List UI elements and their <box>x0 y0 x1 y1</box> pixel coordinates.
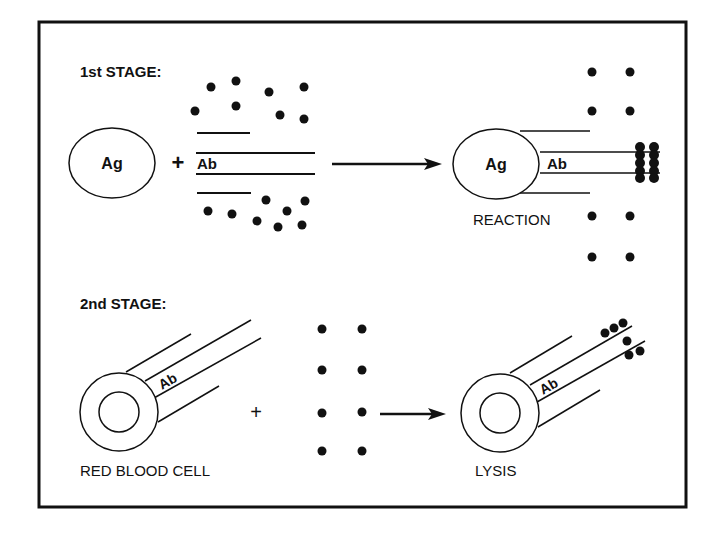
stage2-title: 2nd STAGE: <box>80 295 166 312</box>
bound-antibody-label: Ab <box>547 155 567 172</box>
rbc-caption: RED BLOOD CELL <box>80 462 210 479</box>
lysis-antibody-chain-upper <box>530 326 632 385</box>
stage2-plus-sign: + <box>250 401 262 423</box>
stage2-red-blood-cell: Ab RED BLOOD CELL <box>80 320 261 479</box>
antibody-label: Ab <box>197 155 217 172</box>
lysis-outer-circle <box>461 374 539 452</box>
fixed-complement-cluster <box>635 142 659 183</box>
stage2-complement-dots <box>318 325 367 456</box>
lysis-caption: LYSIS <box>475 462 516 479</box>
rbc-outer-circle <box>80 373 158 451</box>
rbc-antibody-chain-upper <box>145 320 251 381</box>
stage2-lysis-complex: Ab LYSIS <box>461 319 645 480</box>
lysis-antibody-label: Ab <box>537 374 561 397</box>
stage2-arrow <box>380 408 446 420</box>
stage1-title: 1st STAGE: <box>80 63 161 80</box>
stage1-antigen: Ag <box>69 128 155 198</box>
stage1-arrow <box>332 158 442 170</box>
rbc-antibody-arm-top <box>126 334 191 372</box>
lysis-antibody-arm-top <box>510 336 572 373</box>
stage1-antibody: Ab <box>196 133 315 193</box>
reaction-caption: REACTION <box>473 211 551 228</box>
diagram-canvas: 1st STAGE: Ag + Ab <box>0 0 721 533</box>
bound-antigen-label: Ag <box>485 156 506 173</box>
stage1-free-complement-dots <box>588 68 635 262</box>
antigen-label: Ag <box>101 155 122 172</box>
stage1-plus-sign: + <box>172 150 185 175</box>
